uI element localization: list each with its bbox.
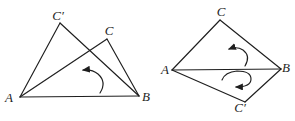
- edge-CB: [220, 20, 281, 69]
- edge-CB: [107, 39, 139, 96]
- edge-AC: [172, 20, 220, 70]
- edge-C-prime-B: [60, 23, 139, 96]
- rotation-arrow-lower: [222, 71, 251, 87]
- geometry-diagram-canvas: C′CABCABC′: [0, 0, 295, 121]
- edge-A-C-prime: [20, 23, 60, 97]
- vertex-label-A: A: [4, 90, 13, 105]
- vertex-label-C: C: [105, 23, 114, 38]
- vertex-label-C-prime: C′: [234, 100, 246, 115]
- triangle-rotation-diagram: C′CABCABC′: [0, 0, 295, 121]
- left-figure-overlapping-triangles: C′CAB: [4, 8, 150, 105]
- right-figure-kite-triangles: CABC′: [160, 4, 290, 115]
- rotation-arrow-counterclockwise: [83, 70, 103, 93]
- edge-C-prime-B: [245, 69, 281, 102]
- vertex-label-B: B: [142, 89, 150, 104]
- edge-A-C-prime: [172, 70, 245, 102]
- rotation-arrow-upper: [229, 48, 248, 66]
- vertex-label-A: A: [160, 62, 169, 77]
- vertex-label-B: B: [282, 60, 290, 75]
- vertex-label-C: C: [217, 4, 226, 19]
- vertex-label-C-prime: C′: [52, 8, 64, 23]
- edge-AB: [172, 69, 281, 70]
- edge-AB: [20, 96, 139, 97]
- edge-AC: [20, 39, 107, 97]
